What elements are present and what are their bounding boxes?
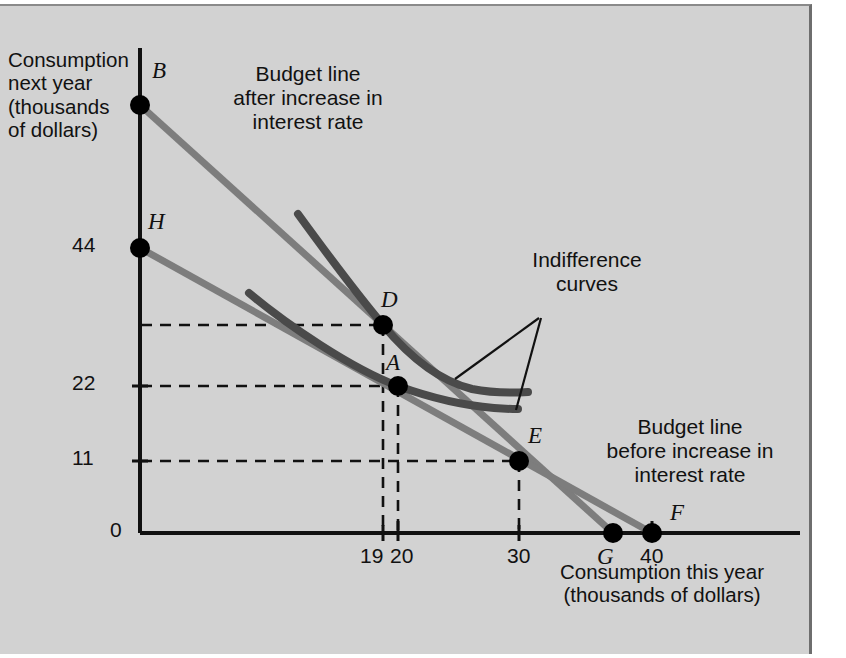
point-label-A: A bbox=[386, 350, 400, 376]
point-label-F: F bbox=[670, 500, 684, 526]
point-F bbox=[642, 523, 662, 543]
figure-container: Consumption next year (thousands of doll… bbox=[0, 0, 846, 658]
point-label-G: G bbox=[597, 544, 614, 570]
y-tick-label-44: 44 bbox=[72, 233, 95, 257]
x-tick-label-19: 19 bbox=[360, 544, 383, 568]
point-A bbox=[388, 376, 408, 396]
y-tick-label-22: 22 bbox=[72, 371, 95, 395]
annotation-budget-after: Budget line after increase in interest r… bbox=[183, 62, 433, 134]
annotation-indifference-curves: Indifference curves bbox=[487, 248, 687, 296]
point-label-H: H bbox=[148, 209, 165, 235]
point-H bbox=[130, 238, 150, 258]
y-tick-label-11: 11 bbox=[72, 446, 94, 470]
point-G bbox=[603, 523, 623, 543]
x-tick-label-20: 20 bbox=[390, 544, 413, 568]
indifference-curve-upper bbox=[298, 214, 528, 393]
y-axis-title: Consumption next year (thousands of doll… bbox=[8, 48, 129, 141]
point-B bbox=[130, 95, 150, 115]
point-label-E: E bbox=[528, 423, 542, 449]
x-tick-label-30: 30 bbox=[507, 544, 530, 568]
annotation-budget-before: Budget line before increase in interest … bbox=[565, 415, 815, 487]
x-tick-label-40: 40 bbox=[640, 544, 663, 568]
point-label-B: B bbox=[152, 58, 166, 84]
point-D bbox=[373, 315, 393, 335]
point-E bbox=[509, 451, 529, 471]
point-label-D: D bbox=[381, 287, 398, 313]
y-tick-label-0: 0 bbox=[110, 518, 122, 542]
